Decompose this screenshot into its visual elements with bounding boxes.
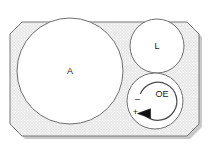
oe-plus-sign: + [133,107,138,117]
oe-minus-sign: – [135,94,140,104]
diagram-canvas: A L – + OE [0,0,209,150]
circle-oe-label: OE [155,89,168,99]
circle-l-label: L [154,41,159,51]
circle-a-label: A [67,66,73,76]
schematic-svg: A L – + OE [0,0,209,150]
